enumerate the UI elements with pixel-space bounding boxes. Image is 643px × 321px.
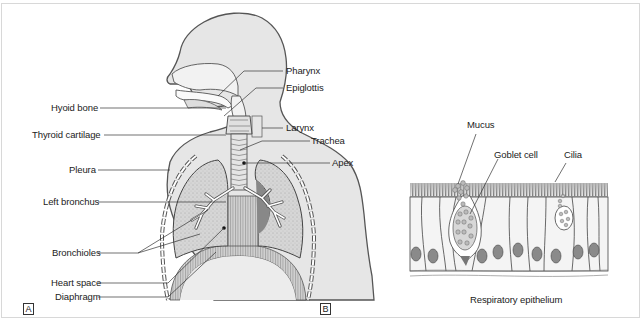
label-trachea: Trachea — [311, 135, 345, 146]
label-left-bronchus: Left bronchus — [43, 196, 99, 207]
label-larynx: Larynx — [286, 122, 314, 133]
respiratory-system-illustration — [0, 0, 643, 321]
label-thyroid-cartilage: Thyroid cartilage — [32, 129, 101, 140]
label-pharynx: Pharynx — [286, 65, 320, 76]
heart-space — [228, 196, 258, 246]
label-apex: Apex — [332, 157, 353, 168]
label-epiglottis: Epiglottis — [286, 82, 324, 93]
caption-respiratory-epithelium: Respiratory epithelium — [470, 294, 562, 305]
label-pleura: Pleura — [69, 164, 96, 175]
label-diaphragm: Diaphragm — [55, 291, 101, 302]
label-mucus: Mucus — [467, 119, 494, 130]
label-cilia: Cilia — [564, 149, 582, 160]
cilia-band — [410, 183, 608, 197]
panel-tag-b: B — [320, 303, 331, 315]
label-goblet-cell: Goblet cell — [494, 149, 538, 160]
panel-tag-a: A — [23, 303, 34, 315]
label-bronchioles: Bronchioles — [52, 247, 101, 258]
label-heart-space: Heart space — [51, 277, 101, 288]
label-hyoid-bone: Hyoid bone — [51, 102, 98, 113]
goblet-cell-2 — [555, 206, 573, 230]
